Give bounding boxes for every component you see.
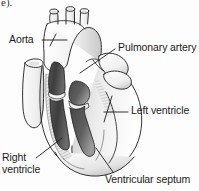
- label-pulmonary-artery: Pulmonary artery: [118, 42, 196, 54]
- subclavian-stump-icon: [80, 9, 89, 25]
- label-aorta: Aorta: [9, 34, 34, 46]
- label-ventricular-septum: Ventricular septum: [105, 174, 190, 186]
- label-right-ventricle-line-2: ventricle: [2, 163, 40, 175]
- heart-anatomy-figure: e).: [0, 0, 199, 191]
- label-left-ventricle: Left ventricle: [131, 105, 189, 117]
- label-right-ventricle: Rightventricle: [2, 152, 40, 175]
- label-right-ventricle-line-1: Right: [2, 151, 26, 163]
